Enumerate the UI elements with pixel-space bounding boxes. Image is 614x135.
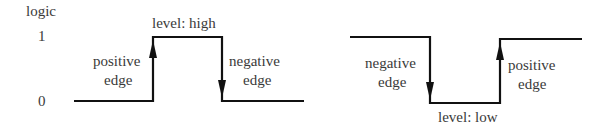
- negative-edge-arrow-icon: [218, 80, 226, 98]
- high-pulse-waveform: [74, 37, 304, 101]
- negative-edge-label-line1: negative: [365, 55, 416, 71]
- negative-edge-label-line2: edge: [378, 74, 406, 90]
- tick-label-low: 0: [38, 93, 46, 109]
- negative-edge-label-line1: negative: [229, 53, 280, 69]
- level-high-label: level: high: [152, 15, 216, 31]
- y-axis-label: logic: [26, 3, 56, 19]
- level-low-label: level: low: [438, 109, 498, 125]
- positive-edge-label-line1: positive: [93, 53, 141, 69]
- positive-edge-arrow-icon: [496, 42, 504, 60]
- positive-edge-label-line1: positive: [508, 57, 556, 73]
- negative-edge-arrow-icon: [426, 82, 434, 100]
- positive-edge-label-line2: edge: [518, 76, 546, 92]
- negative-edge-label-line2: edge: [243, 72, 271, 88]
- positive-edge-arrow-icon: [149, 40, 157, 58]
- positive-edge-label-line2: edge: [104, 72, 132, 88]
- tick-label-high: 1: [38, 28, 46, 44]
